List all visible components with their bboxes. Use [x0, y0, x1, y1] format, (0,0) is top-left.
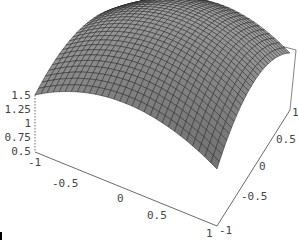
svg-text:1: 1	[292, 106, 298, 119]
z-axis-ticks: 1.5 1.25 1 0.75 0.5	[5, 89, 32, 158]
svg-text:0.75: 0.75	[5, 131, 32, 144]
svg-text:0.5: 0.5	[147, 209, 167, 222]
svg-text:-0.5: -0.5	[52, 177, 79, 190]
x-axis-ticks: -1 -0.5 0 0.5 1	[28, 156, 213, 240]
svg-text:1.25: 1.25	[5, 103, 32, 116]
surface-plot: 1.5 1.25 1 0.75 0.5 -1 -0.5 0 0.5 1 -1 -…	[0, 0, 298, 240]
svg-text:-0.5: -0.5	[241, 190, 268, 203]
corner-mark	[0, 232, 2, 240]
svg-text:0: 0	[259, 160, 266, 173]
svg-text:1.5: 1.5	[11, 89, 31, 102]
svg-text:0.5: 0.5	[276, 133, 296, 146]
svg-text:1: 1	[206, 227, 213, 240]
surface-mesh	[35, 0, 290, 169]
svg-text:1: 1	[24, 117, 31, 130]
svg-text:-1: -1	[28, 156, 41, 169]
svg-text:-1: -1	[219, 224, 232, 237]
svg-text:0: 0	[117, 192, 124, 205]
